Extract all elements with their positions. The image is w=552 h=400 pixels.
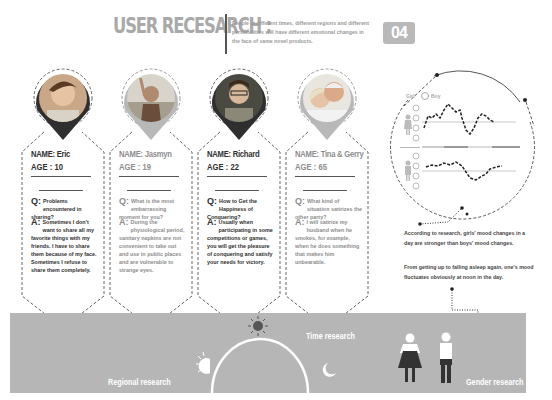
persona-name: NAME: Eric xyxy=(31,149,70,159)
research-categories-band: Regional research Time research Gender r… xyxy=(10,313,526,393)
avatar-tina-gerry xyxy=(303,74,351,122)
persona-name: NAME: Richard xyxy=(207,149,259,159)
persona-card-jasmyn: NAME: Jasmyn AGE : 19 Q:What is the most… xyxy=(108,66,194,328)
mood-face-icons xyxy=(413,105,419,141)
q-mark: Q: xyxy=(295,197,305,206)
gender-research-label: Gender research xyxy=(466,377,523,387)
q-mark: Q: xyxy=(119,197,129,206)
noon-sun-icon xyxy=(248,316,268,336)
divider xyxy=(207,176,267,177)
persona-card-richard: NAME: Richard AGE : 22 Q:How to Get the … xyxy=(196,66,282,328)
persona-answer: A:Usually when participating in some com… xyxy=(207,218,275,266)
persona-card-tina-gerry: NAME: Tina & Gerry AGE : 65 Q:What kind … xyxy=(284,66,370,328)
q-mark: Q: xyxy=(207,197,217,206)
answer-text: During the physiological period, sanitar… xyxy=(119,219,184,273)
divider xyxy=(31,176,91,177)
persona-age: AGE : 65 xyxy=(295,162,327,172)
day-arc xyxy=(212,339,308,393)
sunrise-icon xyxy=(196,352,210,374)
question-text: What kind of situation satirizes the oth… xyxy=(295,198,362,220)
divider xyxy=(215,190,259,191)
persona-answer: A:Sometimes I don't want to share all my… xyxy=(31,218,99,274)
band-illustration xyxy=(10,313,526,393)
answer-text: Usually when participating in some compe… xyxy=(207,219,273,265)
q-mark: Q: xyxy=(31,197,41,206)
persona-card-eric: NAME: Eric AGE : 10 Q:Problems encounter… xyxy=(20,66,106,328)
persona-age: AGE : 10 xyxy=(31,162,63,172)
divider xyxy=(295,176,355,177)
persona-age: AGE : 19 xyxy=(119,162,151,172)
a-mark: A: xyxy=(31,218,41,227)
header-description: People at different times, different reg… xyxy=(232,19,372,46)
male-figure-icon xyxy=(440,333,452,384)
time-research-label: Time research xyxy=(306,331,355,341)
legend-boy: Boy xyxy=(431,93,441,99)
section-number-badge: 04 xyxy=(383,22,415,44)
divider xyxy=(39,190,83,191)
avatar-richard xyxy=(215,74,263,122)
avatar-eric xyxy=(39,74,87,122)
persona-name: NAME: Tina & Gerry xyxy=(295,149,363,159)
divider xyxy=(119,176,179,177)
persona-age: AGE : 22 xyxy=(207,162,239,172)
persona-answer: A:I will satirize my husband when he smo… xyxy=(295,218,363,266)
moon-icon xyxy=(323,363,336,377)
persona-name: NAME: Jasmyn xyxy=(119,149,172,159)
a-mark: A: xyxy=(295,218,305,227)
answer-text: Sometimes I don't want to share all my f… xyxy=(31,219,97,273)
research-note-2: From getting up to falling asleep again,… xyxy=(404,262,534,282)
regional-research-label: Regional research xyxy=(108,377,171,387)
girl-figure-icon xyxy=(404,115,412,136)
avatar-jasmyn xyxy=(127,74,175,122)
a-mark: A: xyxy=(207,218,217,227)
boy-figure-icon xyxy=(405,161,411,182)
divider xyxy=(127,190,171,191)
a-mark: A: xyxy=(119,218,129,227)
divider xyxy=(303,190,347,191)
mood-face-icons xyxy=(413,153,419,189)
persona-answer: A:During the physiological period, sanit… xyxy=(119,218,187,274)
header-divider xyxy=(225,14,227,54)
legend-girl: Girl xyxy=(406,93,415,99)
female-figure-icon xyxy=(398,334,422,383)
research-note-1: According to research, girls' mood chang… xyxy=(404,228,534,248)
answer-text: I will satirize my husband when he smoke… xyxy=(295,219,359,265)
